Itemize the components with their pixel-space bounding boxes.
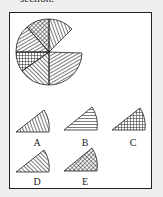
option-e-label: E [78,176,92,187]
option-b-label: B [78,137,92,148]
option-d-sector [16,150,49,172]
option-d-label: D [30,176,44,187]
option-e-sector [64,148,97,171]
pie-diagram [0,0,163,197]
option-b-sector [64,107,97,130]
option-a-sector [16,110,49,132]
option-a-label: A [30,137,44,148]
option-c-label: C [126,137,140,148]
option-c-sector [112,108,145,130]
pie-circle [16,19,82,85]
